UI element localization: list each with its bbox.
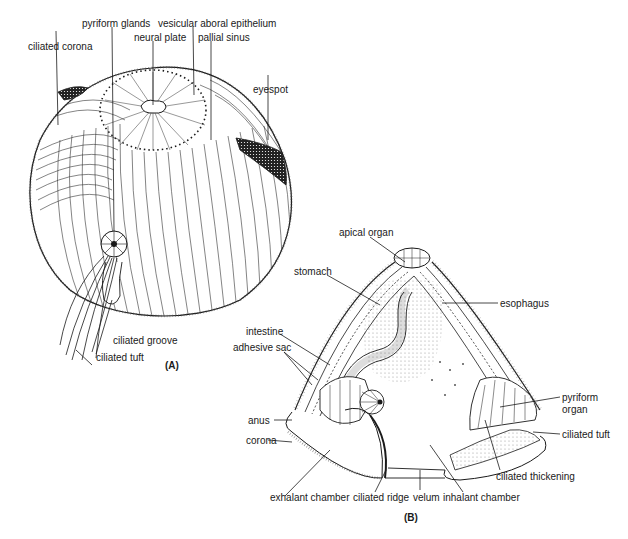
label-corona: corona <box>246 435 277 446</box>
label-exhalant-chamber: exhalant chamber <box>270 492 350 503</box>
label-esophagus: esophagus <box>500 298 549 309</box>
diagram-stage: ciliated corona pyriform glands neural p… <box>0 0 628 539</box>
label-ciliated-groove: ciliated groove <box>113 335 177 346</box>
label-pallial-sinus: pallial sinus <box>198 32 250 43</box>
label-stomach: stomach <box>294 266 332 277</box>
label-ciliated-corona: ciliated corona <box>28 41 92 52</box>
larva-b-body <box>286 248 546 480</box>
label-intestine: intestine <box>246 326 283 337</box>
label-adhesive-sac: adhesive sac <box>233 342 291 353</box>
label-eyespot: eyespot <box>253 84 288 95</box>
pyriform-organ-a <box>101 231 127 257</box>
label-inhalant-chamber: inhalant chamber <box>443 492 520 503</box>
caption-figure-a: (A) <box>165 360 179 371</box>
caption-figure-b: (B) <box>404 512 418 523</box>
label-ciliated-tuft-a: ciliated tuft <box>96 352 144 363</box>
larva-a-body <box>30 67 291 360</box>
label-neural-plate: neural plate <box>134 32 186 43</box>
label-pyriform-organ-line1: pyriform <box>562 392 598 403</box>
label-ciliated-ridge: ciliated ridge <box>353 492 409 503</box>
label-anus: anus <box>248 415 270 426</box>
label-pyriform-glands: pyriform glands <box>82 18 150 29</box>
label-apical-organ: apical organ <box>339 227 393 238</box>
label-vesicular-aboral-epithelium: vesicular aboral epithelium <box>158 18 276 29</box>
label-ciliated-thickening: ciliated thickening <box>496 471 575 482</box>
label-pyriform-organ-line2: organ <box>562 404 588 415</box>
label-velum: velum <box>413 492 440 503</box>
label-ciliated-tuft-b: ciliated tuft <box>562 429 610 440</box>
